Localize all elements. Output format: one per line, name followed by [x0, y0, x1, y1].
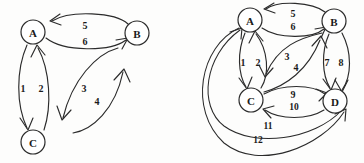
edge-4-group: 4 — [73, 69, 130, 133]
edge-11-path — [208, 30, 342, 139]
edge-5-arrowhead-r — [264, 3, 275, 13]
edge-7-arrowhead-r — [323, 78, 336, 90]
edge-label-8-r: 8 — [339, 57, 344, 68]
node-C-right: C — [239, 88, 263, 112]
edge-1-group: 1 — [19, 45, 33, 130]
node-A-right-label: A — [246, 15, 254, 27]
edge-label-12: 12 — [253, 135, 263, 145]
diagram-panel-right: 12 11 5 6 — [182, 0, 364, 163]
edge-3-group: 3 — [57, 48, 118, 120]
edge-label-4-r: 4 — [294, 62, 299, 73]
node-D-right-label: D — [331, 96, 339, 108]
edge-8-group-r: 8 — [335, 33, 350, 92]
edge-label-1: 1 — [21, 83, 26, 94]
edge-label-3-r: 3 — [285, 51, 290, 62]
edge-2-group-r: 2 — [249, 31, 267, 88]
edge-3-path — [63, 48, 118, 118]
edge-label-7-r: 7 — [325, 57, 330, 68]
edge-label-5-r: 5 — [291, 8, 296, 19]
edge-5-path-r — [266, 3, 325, 12]
edge-7-group-r: 7 — [323, 34, 336, 90]
edge-5-group-r: 5 — [264, 3, 325, 19]
node-B: B — [125, 21, 149, 45]
node-B-right-label: B — [330, 16, 338, 28]
node-D-right: D — [323, 89, 347, 113]
node-C-label: C — [29, 137, 37, 149]
edge-4-path-r — [264, 40, 320, 92]
edge-label-1-r: 1 — [241, 57, 246, 68]
edge-2-group: 2 — [31, 45, 49, 130]
edge-label-6: 6 — [83, 36, 88, 47]
figure-container: 5 6 1 2 — [0, 0, 364, 163]
node-B-right: B — [322, 9, 346, 33]
edge-label-5: 5 — [83, 20, 88, 31]
edge-10-group-r: 10 — [263, 102, 324, 118]
four-node-graph-svg: 12 11 5 6 — [182, 0, 364, 163]
node-A-right: A — [238, 8, 262, 32]
edge-4-group-r: 4 — [264, 36, 327, 92]
edge-11-group: 11 — [208, 28, 342, 139]
edge-1-arrowhead — [20, 118, 33, 130]
edge-5-path — [52, 14, 128, 24]
three-node-graph-svg: 5 6 1 2 — [0, 0, 182, 163]
edge-label-3: 3 — [82, 83, 87, 94]
edge-label-10-r: 10 — [289, 102, 299, 112]
edge-6-group: 6 — [46, 36, 128, 50]
node-A: A — [21, 20, 45, 44]
edge-label-2: 2 — [39, 83, 44, 94]
edge-label-11: 11 — [264, 121, 273, 131]
node-A-label: A — [29, 27, 37, 39]
diagram-panel-left: 5 6 1 2 — [0, 0, 182, 163]
node-B-label: B — [133, 28, 141, 40]
node-C: C — [21, 130, 45, 154]
edge-label-6-r: 6 — [291, 21, 296, 32]
edge-1-arrowhead-r — [239, 77, 252, 89]
edge-label-9-r: 9 — [291, 89, 296, 100]
edge-6-group-r: 6 — [262, 21, 326, 39]
edge-label-4: 4 — [95, 96, 100, 107]
edge-5-group: 5 — [50, 14, 128, 31]
node-C-right-label: C — [247, 95, 255, 107]
edge-2-arrowhead — [31, 45, 45, 57]
